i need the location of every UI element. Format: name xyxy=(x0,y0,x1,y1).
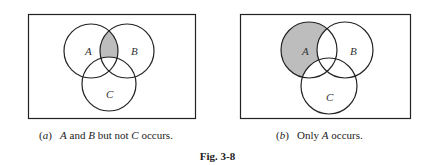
caption-part: A xyxy=(60,129,67,141)
set-label-a: A xyxy=(301,45,309,57)
caption-part: but not xyxy=(95,129,131,141)
caption-part: occurs. xyxy=(329,129,363,141)
set-label-c: C xyxy=(106,88,114,100)
venn-panel-b: A B C xyxy=(241,15,411,119)
set-label-b: B xyxy=(350,45,357,57)
caption-part: B xyxy=(88,129,95,141)
caption-part: and xyxy=(67,129,88,141)
caption-part: Only xyxy=(297,129,322,141)
caption-b: (b) Only A occurs. xyxy=(276,129,363,141)
venn-panel-a: A B C xyxy=(29,15,196,119)
caption-a: (a) A and B but not C occurs. xyxy=(39,129,173,141)
set-label-b: B xyxy=(131,45,138,57)
set-label-c: C xyxy=(326,91,334,103)
figure-label: Fig. 3-8 xyxy=(0,150,435,162)
set-label-a: A xyxy=(84,45,92,57)
caption-part: occurs. xyxy=(139,129,173,141)
caption-part: C xyxy=(131,129,138,141)
caption-tag: (a) xyxy=(39,129,52,141)
caption-part: A xyxy=(322,129,329,141)
caption-tag: (b) xyxy=(276,129,289,141)
